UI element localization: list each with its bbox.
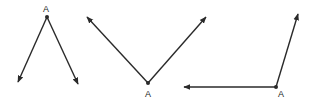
angles-diagram: A A A [0, 0, 309, 99]
vertex-label: A [278, 89, 284, 99]
ray-arrow [18, 17, 47, 82]
angle-1: A [18, 4, 78, 84]
vertex-dot [146, 81, 150, 85]
vertex-label: A [43, 4, 49, 14]
vertex-dot [45, 15, 49, 19]
ray-arrow [276, 14, 298, 87]
ray-arrow [148, 17, 206, 83]
ray-arrow [87, 17, 148, 83]
angle-3: A [184, 14, 298, 99]
ray-arrow [47, 17, 78, 84]
vertex-label: A [145, 89, 151, 99]
